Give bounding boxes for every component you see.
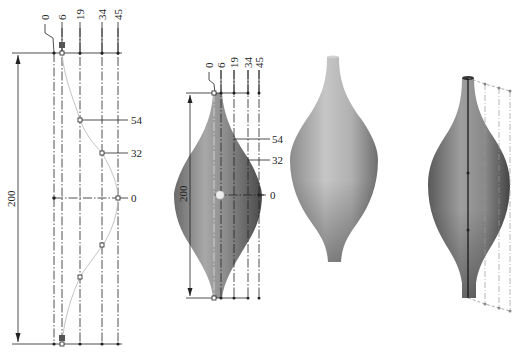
control-point — [60, 51, 64, 55]
control-point — [60, 342, 64, 346]
point — [78, 51, 81, 54]
point — [52, 342, 55, 345]
vase-rim — [327, 56, 339, 59]
row-label-0: 0 — [270, 189, 276, 201]
col-label-45: 45 — [253, 57, 265, 69]
point — [258, 92, 261, 95]
point — [484, 303, 487, 306]
control-point — [212, 91, 216, 95]
panel-solid-with-profile — [428, 76, 512, 313]
control-point — [116, 196, 120, 200]
constraint-icon — [59, 42, 65, 48]
vase-shadow — [290, 57, 378, 262]
point — [467, 229, 470, 232]
col-label-6: 6 — [56, 14, 68, 20]
point — [116, 51, 119, 54]
col-label-6: 6 — [215, 62, 227, 68]
row-label-54: 54 — [272, 133, 284, 145]
row-label-54: 54 — [131, 114, 143, 126]
panel-shaded-solid — [290, 56, 378, 263]
point — [467, 172, 470, 175]
point — [498, 87, 501, 90]
vase-shadow — [428, 78, 510, 298]
point — [116, 342, 119, 345]
control-point — [100, 151, 104, 155]
row-label-0: 0 — [131, 192, 137, 204]
panel-revolved-overlay: 200 0 6 19 34 45 54 32 0 — [174, 57, 284, 301]
point — [258, 297, 261, 300]
col-label-0: 0 — [203, 62, 215, 68]
profile-spline — [62, 53, 118, 344]
origin-marker — [216, 191, 224, 199]
point — [233, 297, 236, 300]
point — [509, 90, 512, 93]
point — [498, 307, 501, 310]
point — [233, 92, 236, 95]
point — [220, 297, 223, 300]
point — [247, 92, 250, 95]
point — [220, 92, 223, 95]
point — [52, 51, 55, 54]
point — [484, 83, 487, 86]
col-label-45: 45 — [112, 9, 124, 21]
point — [509, 310, 512, 313]
dimension-label-200: 200 — [5, 190, 17, 207]
point — [52, 196, 56, 200]
row-label-32: 32 — [272, 154, 283, 166]
control-point — [78, 275, 82, 279]
arrow-up-icon — [188, 95, 193, 103]
col-label-19: 19 — [228, 57, 240, 69]
row-label-32: 32 — [131, 147, 142, 159]
col-label-34: 34 — [96, 9, 108, 21]
panel-profile-sketch: 200 0 6 19 34 45 — [5, 9, 143, 347]
col-label-19: 19 — [74, 9, 86, 21]
point — [100, 51, 103, 54]
dimension-label-200: 200 — [177, 185, 189, 202]
control-point — [100, 243, 104, 247]
point — [78, 342, 81, 345]
arrow-down-icon — [188, 288, 193, 296]
bottom-construction-line — [468, 298, 510, 311]
control-point — [78, 118, 82, 122]
arrow-up-icon — [16, 55, 21, 64]
technical-figure: 200 0 6 19 34 45 — [0, 0, 530, 358]
constraint-icon — [59, 335, 65, 341]
control-point — [212, 296, 216, 300]
leader-0 — [45, 24, 54, 53]
arrow-down-icon — [16, 333, 21, 342]
col-label-0: 0 — [39, 14, 51, 20]
leader-0 — [209, 72, 215, 93]
point — [100, 342, 103, 345]
point — [247, 297, 250, 300]
